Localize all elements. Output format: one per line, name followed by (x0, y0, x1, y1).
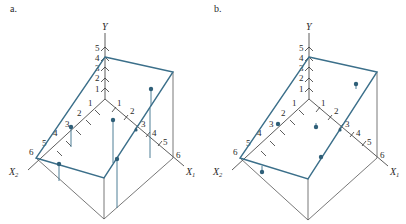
x1-tick-5: 5 (163, 137, 168, 147)
panel-b: b. Y 1 2 3 4 5 1 2 3 4 5 6 X2 1 2 3 4 5 … (212, 3, 399, 220)
data-point (69, 125, 73, 129)
x2-tick-6: 6 (233, 147, 238, 157)
x1-tick-5: 5 (367, 137, 372, 147)
data-point (115, 157, 119, 161)
panel-b-label: b. (214, 3, 222, 14)
y-tick-2: 2 (95, 73, 100, 83)
x2-tick-2: 2 (77, 108, 82, 118)
data-point (134, 128, 137, 131)
prism-edges (36, 72, 173, 219)
x1-tick-4: 4 (152, 128, 157, 138)
prism-edges (240, 72, 377, 220)
y-axis-label: Y (102, 21, 109, 32)
data-point (149, 87, 153, 91)
y-tick-5: 5 (299, 43, 304, 53)
data-point (319, 155, 323, 159)
x1-axis-ticks (316, 107, 366, 146)
x1-tick-1: 1 (117, 98, 122, 108)
data-point (314, 125, 318, 129)
panel-a-label: a. (10, 3, 17, 14)
data-point (338, 128, 341, 131)
x1-tick-6: 6 (176, 150, 181, 160)
diagram-canvas: a. Y 1 2 3 4 5 1 2 3 4 5 6 X2 1 2 3 4 5 … (0, 0, 406, 224)
data-point (111, 118, 115, 122)
x1-tick-2: 2 (334, 106, 339, 116)
y-tick-5: 5 (95, 43, 100, 53)
data-point (276, 122, 280, 126)
x2-tick-3: 3 (269, 119, 274, 129)
y-tick-2: 2 (299, 73, 304, 83)
y-axis-label: Y (306, 21, 313, 32)
y-tick-1: 1 (95, 84, 100, 94)
data-point (260, 170, 264, 174)
y-tick-4: 4 (95, 53, 100, 63)
x2-tick-6: 6 (29, 147, 34, 157)
data-point (57, 162, 61, 166)
y-tick-1: 1 (299, 84, 304, 94)
panel-a: a. Y 1 2 3 4 5 1 2 3 4 5 6 X2 1 2 3 4 5 … (8, 3, 195, 219)
x1-tick-2: 2 (130, 106, 135, 116)
x2-axis-label: X2 (212, 166, 223, 178)
y-tick-4: 4 (299, 53, 304, 63)
x1-tick-4: 4 (356, 128, 361, 138)
data-point (354, 82, 358, 86)
x1-tick-1: 1 (321, 98, 326, 108)
x2-axis-label: X2 (8, 166, 19, 178)
regression-plane (240, 57, 377, 179)
x1-axis (105, 99, 184, 166)
x2-tick-2: 2 (281, 108, 286, 118)
x1-axis-label: X1 (185, 166, 195, 178)
x1-tick-6: 6 (380, 150, 385, 160)
regression-plane (36, 57, 173, 178)
x2-tick-1: 1 (88, 98, 93, 108)
x2-tick-1: 1 (292, 98, 297, 108)
x1-axis-label: X1 (389, 166, 399, 178)
